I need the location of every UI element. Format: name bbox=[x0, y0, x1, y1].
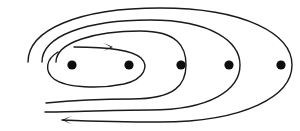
pole-dot-1 bbox=[67, 60, 76, 69]
pole-dot-5 bbox=[276, 60, 285, 69]
pole-dot-2 bbox=[124, 60, 133, 69]
pole-dot-4 bbox=[224, 60, 233, 69]
figure-root: Line drawing of a spiral made of four ne… bbox=[0, 0, 300, 131]
contour-diagram bbox=[0, 0, 300, 131]
pole-dot-3 bbox=[176, 60, 185, 69]
